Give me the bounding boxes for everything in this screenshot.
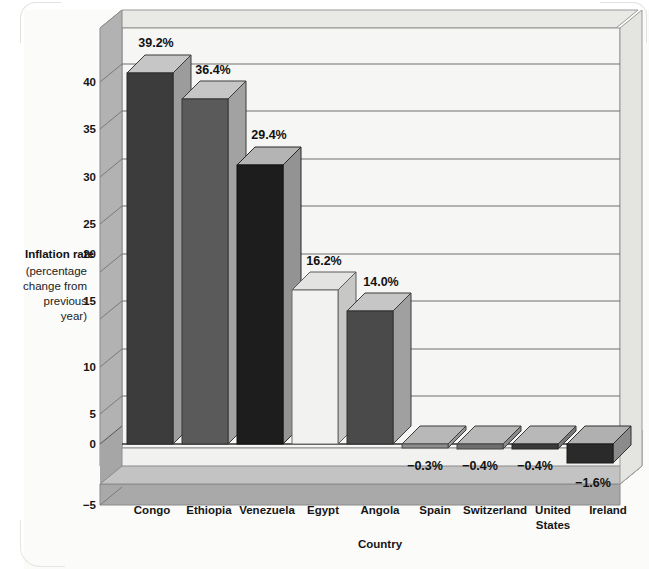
y-axis-title-line1: (percentage — [26, 265, 87, 277]
bar-angola-side — [393, 293, 411, 444]
ytick-25: 25 — [83, 218, 96, 230]
xtick-venezuela: Venezuela — [239, 504, 295, 516]
value-label-switzerland: −0.4% — [462, 459, 498, 473]
ytick-30: 30 — [83, 171, 96, 183]
bar-ethiopia[interactable] — [182, 81, 246, 444]
inflation-rate-bar-chart: 40 35 30 25 20 15 10 5 0 −5 Inflation ra… — [0, 0, 649, 569]
value-label-ethiopia: 36.4% — [195, 63, 230, 77]
bar-switzerland-front — [457, 444, 503, 449]
value-label-egypt: 16.2% — [306, 254, 341, 268]
xtick-switzerland: Switzerland — [463, 504, 527, 516]
bar-angola-front — [347, 311, 393, 444]
plot-left-wall — [100, 10, 122, 466]
chart-canvas: 40 35 30 25 20 15 10 5 0 −5 Inflation ra… — [0, 0, 649, 569]
value-label-venezuela: 29.4% — [251, 128, 286, 142]
ytick-neg5: −5 — [83, 499, 97, 511]
value-label-united-states: −0.4% — [517, 459, 553, 473]
xtick-united-states-line1: United — [535, 504, 571, 516]
value-label-congo: 39.2% — [138, 36, 173, 50]
ytick-10: 10 — [83, 361, 96, 373]
bar-spain-front — [402, 444, 448, 448]
frame-top-cap — [100, 10, 638, 28]
xtick-ethiopia: Ethiopia — [186, 504, 232, 516]
y-axis-title-line4: year) — [61, 310, 87, 322]
plot-base-front — [100, 484, 620, 505]
xtick-spain: Spain — [419, 504, 450, 516]
bar-ethiopia-front — [182, 99, 228, 444]
plot-base-top-bevel — [100, 466, 642, 484]
ytick-40: 40 — [83, 76, 96, 88]
y-axis-title: Inflation rate (percentage change from p… — [23, 248, 94, 322]
y-axis-title-line3: previous — [44, 295, 88, 307]
xtick-congo: Congo — [134, 504, 170, 516]
bar-congo[interactable] — [127, 55, 191, 444]
y-axis-title-main: Inflation rate — [25, 248, 94, 260]
x-axis-category-labels: Congo Ethiopia Venezuela Egypt Angola Sp… — [134, 504, 627, 531]
bar-egypt[interactable] — [292, 272, 356, 444]
bar-venezuela[interactable] — [237, 147, 301, 444]
bar-venezuela-front — [237, 165, 283, 444]
x-axis-title: Country — [358, 538, 403, 550]
xtick-united-states-line2: States — [536, 519, 571, 531]
y-axis-tick-labels: 40 35 30 25 20 15 10 5 0 −5 — [83, 76, 97, 511]
value-label-angola: 14.0% — [363, 275, 398, 289]
plot-right-edge — [620, 10, 642, 484]
value-label-ireland: −1.6% — [575, 476, 611, 490]
xtick-egypt: Egypt — [307, 504, 339, 516]
ytick-35: 35 — [83, 123, 96, 135]
bar-ireland-front — [567, 444, 613, 463]
xtick-angola: Angola — [361, 504, 401, 516]
ytick-5: 5 — [90, 408, 97, 420]
xtick-ireland: Ireland — [589, 504, 627, 516]
y-axis-title-line2: change from — [23, 280, 87, 292]
ytick-0: 0 — [90, 438, 96, 450]
bar-angola[interactable] — [347, 293, 411, 444]
bar-egypt-front — [292, 290, 338, 444]
bar-congo-front — [127, 73, 173, 444]
bar-united-states-front — [512, 444, 558, 449]
value-label-spain: −0.3% — [407, 459, 443, 473]
